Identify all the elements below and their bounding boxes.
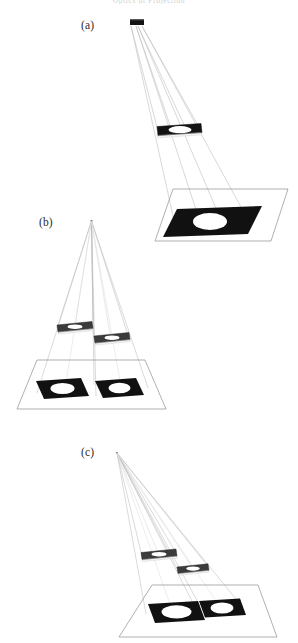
panel-b — [17, 220, 166, 409]
panel-a — [130, 20, 288, 242]
panel-a-light-source — [130, 20, 144, 26]
panel-c-slide-left — [141, 549, 178, 562]
panel-c-rays — [117, 453, 240, 614]
panel-b-rays — [37, 221, 148, 396]
panel-label-b: (b) — [38, 216, 54, 228]
panel-c — [116, 452, 277, 637]
panel-label-c: (c) — [80, 446, 95, 458]
panel-c-projected-image-left — [148, 601, 205, 623]
panel-b-projected-image-right — [95, 378, 144, 398]
panel-b-slide-left — [57, 322, 94, 335]
panel-a-slide — [157, 124, 202, 138]
panel-label-a: (a) — [80, 19, 95, 31]
panel-c-projected-image-right — [199, 599, 246, 618]
figure-root: Optics of Projection — [0, 0, 298, 643]
optical-projection-figure — [0, 0, 298, 643]
panel-b-projected-image-left — [36, 378, 89, 399]
panel-a-projected-image — [163, 206, 262, 237]
panel-b-slide-right — [94, 333, 131, 346]
panel-c-slide-right — [177, 564, 210, 576]
